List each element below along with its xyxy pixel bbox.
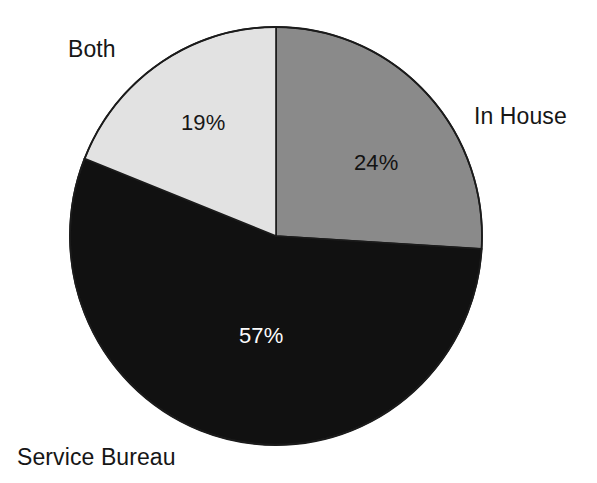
pie-slice-in-house[interactable] — [276, 27, 482, 249]
pie-chart-graphic — [0, 0, 597, 483]
slice-value-label-in-house: 24% — [354, 150, 398, 176]
slice-value-label-service-bureau: 57% — [239, 323, 283, 349]
slice-value-label-both: 19% — [181, 110, 225, 136]
slice-category-label-in-house: In House — [474, 103, 567, 130]
pie-chart-figure: Both In House Service Bureau 19% 24% 57% — [0, 0, 597, 483]
slice-category-label-service-bureau: Service Bureau — [17, 444, 176, 471]
slice-category-label-both: Both — [68, 36, 116, 63]
